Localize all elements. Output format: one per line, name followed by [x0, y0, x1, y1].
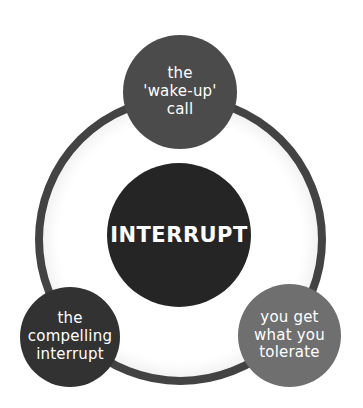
node-label-line: the [57, 310, 82, 328]
node-label-line: interrupt [36, 346, 104, 364]
node-label-line: what you [254, 327, 325, 345]
node-label-line: the [167, 65, 192, 83]
node-compelling-interrupt: the compelling interrupt [20, 287, 120, 387]
node-label-line: you get [260, 309, 318, 327]
node-label-line: compelling [28, 328, 112, 346]
node-label-line: 'wake-up' [143, 83, 216, 101]
node-you-get-what-you-tolerate: you get what you tolerate [238, 284, 341, 387]
node-label-line: call [167, 101, 194, 119]
center-node-interrupt: INTERRUPT [107, 163, 251, 307]
node-label-line: tolerate [259, 344, 320, 362]
center-label: INTERRUPT [110, 223, 248, 248]
node-wake-up-call: the 'wake-up' call [123, 35, 237, 149]
